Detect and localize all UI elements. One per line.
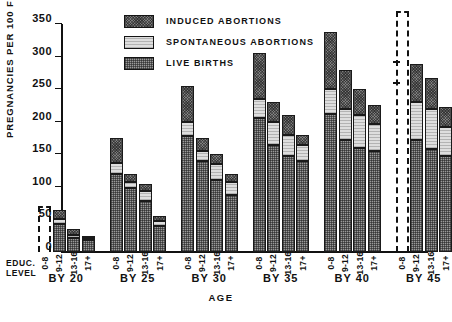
education-level-tick-0-8: 0-8: [324, 258, 337, 268]
education-level-tick-13-16: 13-16: [282, 258, 295, 268]
segment-spontaneous-abortions: [339, 109, 352, 140]
segment-live-births: [410, 140, 423, 252]
segment-induced-abortions: [439, 107, 452, 127]
group-label-by-20: BY 20: [38, 272, 95, 284]
segment-spontaneous-abortions: [267, 122, 280, 145]
segment-live-births: [139, 201, 152, 252]
education-level-tick-0-8: 0-8: [253, 258, 266, 268]
education-level-tick-9-12: 9-12: [196, 258, 209, 268]
segment-induced-abortions: [53, 210, 66, 219]
segment-live-births: [267, 145, 280, 252]
segment-induced-abortions: [196, 138, 209, 151]
group-label-by-25: BY 25: [110, 272, 167, 284]
education-level-tick-13-16: 13-16: [67, 258, 80, 268]
bar-17+: [368, 105, 381, 252]
segment-induced-abortions: [181, 86, 194, 122]
bar-17+: [82, 236, 95, 252]
education-level-label: 0-8: [254, 256, 264, 269]
bar-0-8: [324, 32, 337, 252]
education-level-tick-13-16: 13-16: [139, 258, 152, 268]
segment-spontaneous-abortions: [225, 182, 238, 195]
segment-live-births: [124, 188, 137, 252]
segment-spontaneous-abortions: [181, 122, 194, 136]
segment-induced-abortions: [425, 78, 438, 109]
segment-live-births: [196, 161, 209, 252]
education-level-tick-17+: 17+: [368, 258, 381, 268]
segment-spontaneous-abortions: [282, 135, 295, 156]
y-tick-label-350: 350: [32, 12, 52, 24]
segment-live-births: [181, 136, 194, 252]
segment-induced-abortions: [67, 229, 80, 235]
education-level-label: 9-12: [197, 254, 207, 272]
segment-spontaneous-abortions: [253, 99, 266, 119]
segment-induced-abortions: [324, 32, 337, 89]
education-level-label: 17+: [83, 255, 93, 270]
segment-induced-abortions: [153, 216, 166, 221]
education-level-label: 9-12: [340, 254, 350, 272]
education-level-tick-9-12: 9-12: [410, 258, 423, 268]
segment-live-births: [296, 161, 309, 252]
bar-9-12: [410, 64, 423, 252]
bar-group-by-45: [396, 24, 452, 252]
education-level-caption-line2: LEVEL: [6, 268, 36, 278]
segment-induced-abortions: [139, 184, 152, 192]
segment-live-births: [353, 148, 366, 252]
bar-13-16: [353, 89, 366, 252]
bar-13-16: [425, 78, 438, 252]
group-label-by-35: BY 35: [253, 272, 310, 284]
segment-induced-abortions: [296, 135, 309, 145]
bar-9-12: [124, 174, 137, 252]
segment-induced-abortions: [253, 53, 266, 99]
education-level-tick-13-16: 13-16: [210, 258, 223, 268]
education-level-caption-line1: EDUC.: [6, 258, 36, 268]
education-level-tick-17+: 17+: [153, 258, 166, 268]
projected-bar-mark-290: [393, 61, 400, 63]
segment-induced-abortions: [110, 138, 123, 163]
projected-bar-mark-258: [393, 82, 400, 84]
segment-spontaneous-abortions: [324, 89, 337, 114]
education-level-label: 17+: [441, 255, 451, 270]
segment-spontaneous-abortions: [353, 115, 366, 148]
segment-live-births: [210, 180, 223, 252]
segment-spontaneous-abortions: [439, 127, 452, 156]
bar-13-16: [282, 115, 295, 252]
segment-live-births: [425, 149, 438, 252]
education-level-tick-0-8: 0-8: [396, 258, 409, 268]
education-level-label: 0-8: [111, 256, 121, 269]
education-level-label: 9-12: [126, 254, 136, 272]
segment-live-births: [110, 174, 123, 252]
education-level-tick-9-12: 9-12: [124, 258, 137, 268]
education-level-tick-17+: 17+: [439, 258, 452, 268]
education-level-tick-0-8: 0-8: [181, 258, 194, 268]
bar-13-16: [67, 229, 80, 252]
segment-spontaneous-abortions: [196, 151, 209, 161]
segment-live-births: [368, 151, 381, 252]
x-axis-title: AGE: [0, 292, 442, 303]
education-level-label: 0-8: [326, 256, 336, 269]
bar-group-by-20: [38, 24, 95, 252]
bar-9-12: [196, 138, 209, 252]
segment-spontaneous-abortions: [210, 164, 223, 180]
education-level-tick-9-12: 9-12: [267, 258, 280, 268]
segment-spontaneous-abortions: [110, 163, 123, 174]
segment-live-births: [439, 156, 452, 252]
group-label-by-30: BY 30: [181, 272, 238, 284]
bar-13-16: [210, 154, 223, 252]
segment-spontaneous-abortions: [124, 182, 137, 189]
bar-0-8: [253, 53, 266, 252]
segment-live-births: [67, 238, 80, 252]
bar-17+: [439, 107, 452, 252]
bar-group-by-30: [181, 24, 238, 252]
plot-area: 050100150200250300350: [62, 24, 428, 252]
segment-induced-abortions: [82, 236, 95, 239]
segment-induced-abortions: [339, 70, 352, 109]
bar-9-12: [339, 70, 352, 252]
education-level-label: 17+: [155, 255, 165, 270]
group-label-by-40: BY 40: [324, 272, 381, 284]
segment-induced-abortions: [353, 89, 366, 115]
projected-bar-0-8: [38, 206, 51, 252]
education-level-label: 0-8: [183, 256, 193, 269]
bar-group-by-35: [253, 24, 310, 252]
segment-live-births: [153, 226, 166, 252]
